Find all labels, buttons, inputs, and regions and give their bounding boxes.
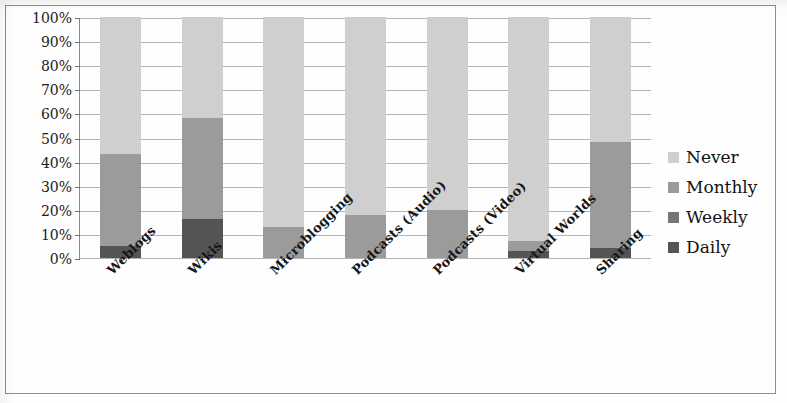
stacked-bar[interactable]: [345, 17, 386, 258]
stacked-bar-chart: 100%90%80%70%60%50%40%30%20%10%0% Weblog…: [0, 0, 787, 403]
y-axis-tick-label: 90%: [41, 35, 72, 49]
legend-swatch-icon: [668, 152, 679, 163]
y-axis-tick-label: 40%: [41, 156, 72, 170]
legend-item[interactable]: Weekly: [668, 202, 780, 232]
bar-segment[interactable]: [182, 118, 223, 219]
stacked-bar[interactable]: [508, 17, 549, 258]
y-axis-tick-label: 70%: [41, 83, 72, 97]
legend-item[interactable]: Monthly: [668, 172, 780, 202]
chart-page: 100%90%80%70%60%50%40%30%20%10%0% Weblog…: [0, 0, 787, 403]
stacked-bar[interactable]: [427, 17, 468, 258]
legend-label: Weekly: [686, 207, 748, 227]
y-axis-tick-label: 60%: [41, 107, 72, 121]
bar-segment[interactable]: [263, 17, 304, 227]
legend-swatch-icon: [668, 182, 679, 193]
legend-label: Daily: [686, 237, 730, 257]
y-axis-tick-label: 10%: [41, 228, 72, 242]
bar-segment[interactable]: [590, 142, 631, 248]
y-axis-tick-label: 100%: [32, 11, 72, 25]
legend-item[interactable]: Daily: [668, 232, 780, 262]
y-axis-tick-label: 0%: [50, 252, 72, 266]
stacked-bar[interactable]: [100, 17, 141, 258]
bar-slot: [80, 18, 162, 258]
y-axis-labels: 100%90%80%70%60%50%40%30%20%10%0%: [6, 18, 72, 259]
y-axis-tick-label: 50%: [41, 132, 72, 146]
y-axis-tick-label: 80%: [41, 59, 72, 73]
legend-label: Never: [686, 147, 739, 167]
stacked-bar[interactable]: [263, 17, 304, 258]
bar-segment[interactable]: [508, 17, 549, 241]
legend-swatch-icon: [668, 242, 679, 253]
bar-segment[interactable]: [182, 17, 223, 118]
y-axis-tick-label: 30%: [41, 180, 72, 194]
y-axis-tick-label: 20%: [41, 204, 72, 218]
stacked-bar[interactable]: [182, 17, 223, 258]
bar-slot: [569, 18, 651, 258]
bar-slot: [162, 18, 244, 258]
bar-segment[interactable]: [345, 17, 386, 215]
legend-label: Monthly: [686, 177, 757, 197]
bar-segment[interactable]: [590, 17, 631, 142]
stacked-bar[interactable]: [590, 17, 631, 258]
bar-segment[interactable]: [427, 17, 468, 210]
bar-segment[interactable]: [100, 17, 141, 154]
x-axis-labels: WeblogsWikisMicrobloggingPodcasts (Audio…: [79, 259, 650, 369]
legend-swatch-icon: [668, 212, 679, 223]
chart-legend: NeverMonthlyWeeklyDaily: [668, 142, 780, 262]
legend-item[interactable]: Never: [668, 142, 780, 172]
bar-segment[interactable]: [100, 154, 141, 246]
